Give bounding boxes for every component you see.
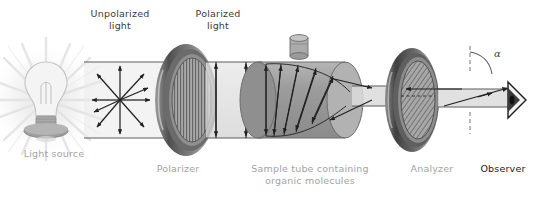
polarimetry-diagram: Unpolarized light Polarized light Light … xyxy=(0,0,542,199)
label-polarized-light: Polarized light xyxy=(176,8,260,32)
label-light-source: Light source xyxy=(2,148,106,160)
observer-eye-icon xyxy=(508,82,526,118)
analyzer-disc xyxy=(385,48,439,152)
label-unpolarized-light: Unpolarized light xyxy=(72,8,168,32)
label-rotation-angle-alpha: α xyxy=(494,48,501,59)
label-analyzer: Analyzer xyxy=(394,163,470,175)
tube-stopper xyxy=(290,35,308,60)
label-polarizer: Polarizer xyxy=(136,163,220,175)
label-observer: Observer xyxy=(466,163,540,175)
label-sample-tube: Sample tube containing organic molecules xyxy=(230,163,390,187)
